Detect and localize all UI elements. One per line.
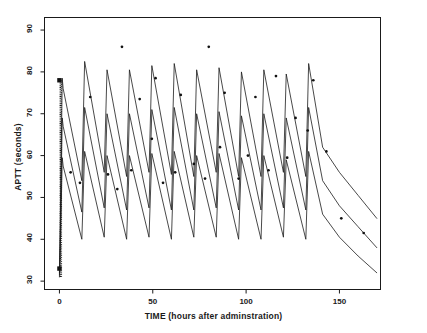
observed-point [130,169,133,172]
observed-point [121,45,124,48]
observed-point [247,154,250,157]
observed-point-square [57,78,61,82]
observed-point [267,169,270,172]
observed-point [150,138,153,141]
observed-point [254,96,257,99]
chart-canvas [0,0,427,333]
y-axis-title: APTT (seconds) [13,87,23,227]
x-tick-label: 50 [138,297,168,306]
x-tick-label: 100 [231,297,261,306]
observed-point [223,91,226,94]
observed-point [174,171,177,174]
y-tick-label: 40 [24,228,33,248]
x-tick-label: 0 [44,297,74,306]
observed-point [340,217,343,220]
observed-point [362,232,365,235]
y-tick-label: 90 [24,19,33,39]
observed-point [325,150,328,153]
y-axis-ticks [41,30,45,281]
y-tick-label: 80 [24,60,33,80]
observed-point [107,173,110,176]
observed-point [219,146,222,149]
observed-point [294,117,297,120]
y-tick-label: 60 [24,144,33,164]
observed-point [89,96,92,99]
observed-point [207,45,210,48]
observed-point [179,94,182,97]
observed-point [312,79,315,82]
apt-time-profile-figure: 30405060708090 050100150 TIME (hours aft… [0,0,427,333]
observed-point [237,177,240,180]
observed-point [138,98,141,101]
y-tick-label: 70 [24,102,33,122]
observed-data-points [57,45,365,270]
observed-point [275,75,278,78]
observed-point [162,181,165,184]
x-axis-ticks [59,290,339,294]
y-tick-label: 50 [24,186,33,206]
observed-point [204,177,207,180]
y-tick-label: 30 [24,270,33,290]
x-tick-label: 150 [324,297,354,306]
observed-point [79,181,82,184]
lower-percentile-simulation [59,151,376,277]
observed-point [154,77,157,80]
observed-point-square [57,266,61,270]
observed-point [286,156,289,159]
observed-point [116,188,119,191]
observed-point [306,129,309,132]
observed-point [69,171,72,174]
x-axis-title: TIME (hours after adminstration) [0,311,427,321]
observed-point [192,163,195,166]
simulation-curves [59,61,376,277]
